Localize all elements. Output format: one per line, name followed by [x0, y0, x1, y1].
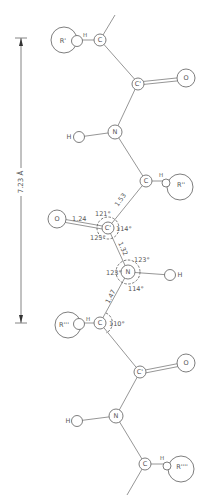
residue-1: R' H C [51, 27, 106, 53]
hydrogen-atom [72, 36, 83, 47]
nitrogen-label: N [113, 128, 118, 136]
carbonyl-carbon-label: C' [137, 368, 144, 376]
side-chain-r2-label: R'' [177, 181, 185, 189]
angle-calpha-cprime-n: 114° [116, 225, 132, 233]
amide-hydrogen [72, 416, 83, 427]
residue-4: C H R'''' [139, 455, 194, 482]
nitrogen-label: N [126, 268, 131, 276]
polypeptide-chain-diagram: 7.23 Å R' H C [0, 0, 209, 504]
carbonyl-carbon-label: C' [105, 224, 112, 232]
amide-hydrogen-label: H [67, 133, 72, 141]
bond-length-c-o: 1.24 [72, 215, 86, 223]
angle-calpha-n-h: 114° [128, 285, 144, 293]
amide-hydrogen [74, 132, 85, 143]
carbonyl-carbon-label: C' [135, 80, 142, 88]
hydrogen-atom [163, 462, 171, 470]
hydrogen-label: H [159, 172, 163, 178]
alpha-carbon-label: C [98, 319, 103, 327]
arrow-up-icon [19, 38, 23, 46]
arrow-down-icon [19, 315, 23, 323]
oxygen-label: O [183, 359, 188, 367]
hydrogen-atom [162, 179, 170, 187]
dimension-label: 7.23 Å [16, 170, 25, 193]
angle-cprime-n-h: 123° [134, 256, 150, 264]
peptide-unit-2: O C' N H 1.24 1.53 1.32 1.47 121° 114° 1… [48, 192, 183, 328]
side-chain-r4-label: R'''' [176, 463, 188, 471]
hydrogen-label: H [160, 455, 164, 461]
oxygen-label: O [183, 74, 188, 82]
dimension-line: 7.23 Å [15, 38, 27, 323]
amide-hydrogen [165, 270, 176, 281]
hydrogen-label: H [83, 32, 87, 38]
bond-length-n-calpha: 1.47 [104, 288, 118, 305]
amide-hydrogen-label: H [66, 417, 71, 425]
alpha-carbon-label: C [143, 460, 148, 468]
side-chain-r1-label: R' [60, 37, 67, 45]
hydrogen-label: H [86, 316, 90, 322]
nitrogen-label: N [114, 412, 119, 420]
angle-cprime-n-calpha: 123° [106, 269, 122, 277]
oxygen-label: O [54, 215, 59, 223]
alpha-carbon-label: C [144, 177, 149, 185]
angle-calpha-cprime-o: 121° [95, 210, 111, 218]
figure-caption [0, 497, 209, 504]
alpha-carbon-label: C [98, 36, 103, 44]
bond-length-cprime-n: 1.32 [116, 240, 129, 257]
side-chain-r3-label: R''' [59, 321, 69, 329]
angle-o-cprime-n: 125° [90, 234, 106, 242]
peptide-unit-1: C' O N H [67, 69, 195, 143]
amide-hydrogen-label: H [178, 271, 183, 279]
hydrogen-atom [74, 319, 85, 330]
residue-2: C H R'' [140, 172, 193, 200]
